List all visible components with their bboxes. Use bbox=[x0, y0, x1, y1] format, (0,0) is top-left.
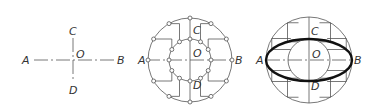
outer-division-point bbox=[209, 22, 213, 26]
figure-axes: A B C D O bbox=[21, 25, 125, 97]
outer-division-point bbox=[230, 58, 234, 62]
label-D: D bbox=[193, 79, 201, 92]
outer-division-point bbox=[152, 37, 156, 41]
label-C: C bbox=[193, 24, 201, 37]
label-D: D bbox=[69, 84, 77, 97]
label-B: B bbox=[235, 54, 243, 67]
label-O: O bbox=[312, 48, 321, 61]
inner-division-point bbox=[170, 48, 174, 52]
ellipse-construction-diagram: A B C D O A B C D O A B C D O bbox=[0, 0, 379, 105]
inner-division-point bbox=[167, 58, 171, 62]
label-B: B bbox=[117, 54, 125, 67]
inner-division-point bbox=[199, 40, 203, 44]
label-C: C bbox=[311, 25, 319, 38]
label-D: D bbox=[311, 80, 319, 93]
label-B: B bbox=[354, 54, 362, 67]
outer-division-point bbox=[152, 79, 156, 83]
inner-division-point bbox=[209, 58, 213, 62]
outer-division-point bbox=[188, 100, 192, 104]
outer-division-point bbox=[167, 22, 171, 26]
outer-division-point bbox=[188, 16, 192, 20]
outer-division-point bbox=[209, 94, 213, 98]
inner-division-point bbox=[206, 48, 210, 52]
outer-division-point bbox=[224, 79, 228, 83]
label-A: A bbox=[255, 54, 264, 67]
outer-division-point bbox=[146, 58, 150, 62]
outer-division-point bbox=[167, 94, 171, 98]
inner-division-point bbox=[178, 76, 182, 80]
inner-division-point bbox=[188, 37, 192, 41]
outer-division-point bbox=[224, 37, 228, 41]
label-A: A bbox=[137, 54, 146, 67]
label-O: O bbox=[76, 48, 85, 61]
inner-division-point bbox=[170, 69, 174, 73]
inner-division-point bbox=[206, 69, 210, 73]
figure-circles-divided bbox=[146, 16, 234, 104]
inner-division-point bbox=[178, 40, 182, 44]
label-A: A bbox=[21, 54, 30, 67]
label-O: O bbox=[193, 47, 202, 60]
figure-ellipse bbox=[266, 17, 352, 103]
label-C: C bbox=[69, 25, 77, 38]
inner-division-point bbox=[188, 79, 192, 83]
